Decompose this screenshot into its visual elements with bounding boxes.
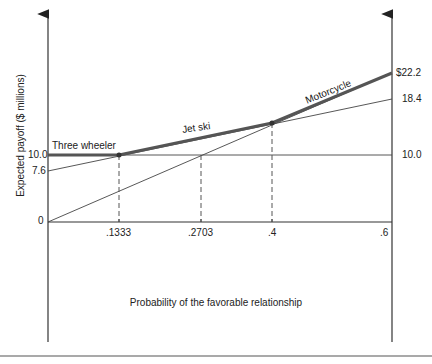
y-tick-left-10: 10.0 bbox=[28, 149, 47, 160]
y-tick-right-10: 10.0 bbox=[402, 149, 421, 160]
y-tick-left-7-6: 7.6 bbox=[32, 165, 46, 176]
x-tick-1333: .1333 bbox=[106, 227, 131, 238]
breakpoint-4 bbox=[270, 121, 275, 126]
x-axis-label: Probability of the favorable relationshi… bbox=[0, 297, 432, 308]
y-tick-left-0: 0 bbox=[38, 215, 44, 226]
three-wheeler-label: Three wheeler bbox=[52, 140, 116, 151]
x-tick-4: .4 bbox=[268, 227, 276, 238]
decision-chart bbox=[0, 0, 432, 364]
x-tick-2703: .2703 bbox=[188, 227, 213, 238]
breakpoint-1333 bbox=[117, 153, 122, 158]
y-axis-label: Expected payoff ($ millions) bbox=[15, 56, 26, 216]
y-tick-right-22-2: $22.2 bbox=[396, 67, 421, 78]
x-tick-6: .6 bbox=[380, 227, 388, 238]
y-tick-right-18-4: 18.4 bbox=[402, 93, 421, 104]
